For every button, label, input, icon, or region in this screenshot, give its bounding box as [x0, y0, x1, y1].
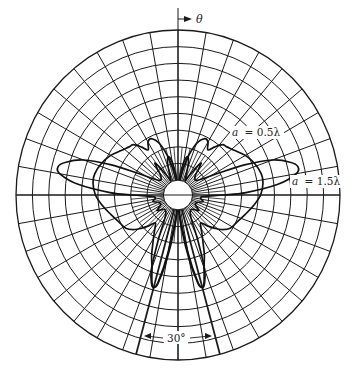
label-var: a — [232, 126, 238, 138]
theta-arrow-head-icon — [184, 16, 192, 22]
span-arrow-right-icon — [205, 333, 212, 339]
grid-radial-line — [181, 33, 207, 181]
label-var: a — [292, 175, 298, 187]
polar-radiation-diagram: θ a = 0.5λ a = 1.5λ 30° — [0, 0, 354, 372]
grid-fine-radial-line — [151, 207, 170, 234]
curve-label-a-0.5: a = 0.5λ — [232, 126, 280, 138]
label-a-1.5: a = 1.5λ — [290, 175, 346, 188]
curve-label-a-1.5: a = 1.5λ — [292, 175, 340, 187]
theta-axis-marker: θ — [178, 8, 203, 30]
grid-radial-line — [192, 198, 337, 224]
span-arrow-left-icon — [144, 333, 151, 339]
angle-span-line — [136, 195, 178, 354]
grid-fine-radial-line — [186, 207, 205, 234]
theta-label: θ — [196, 13, 203, 26]
grid-radial-line — [18, 198, 163, 224]
grid-radial-line — [150, 33, 176, 181]
label-value: = 0.5λ — [245, 126, 281, 138]
label-value: = 1.5λ — [305, 175, 341, 187]
label-a-0.5: a = 0.5λ — [230, 126, 284, 139]
grid-fine-radial-line — [190, 204, 217, 223]
grid-fine-radial-line — [139, 204, 166, 223]
span-label: 30° — [167, 332, 186, 344]
angle-span-line — [178, 195, 220, 354]
